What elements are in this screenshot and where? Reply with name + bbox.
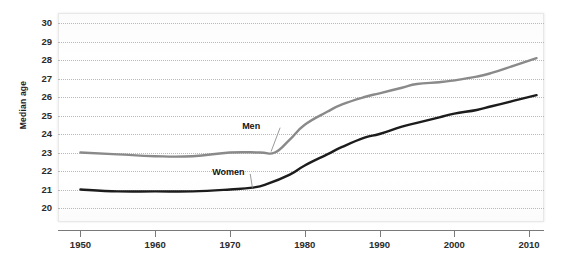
series-line-men <box>80 58 536 157</box>
annotation-leader-line <box>250 174 252 188</box>
series-layer <box>0 0 571 255</box>
chart-container: Median age 3029282726252423222120 195019… <box>0 0 571 255</box>
annotation-leader-line <box>271 128 280 152</box>
series-label-women: Women <box>212 167 244 177</box>
series-label-men: Men <box>242 121 260 131</box>
series-line-women <box>80 95 536 191</box>
